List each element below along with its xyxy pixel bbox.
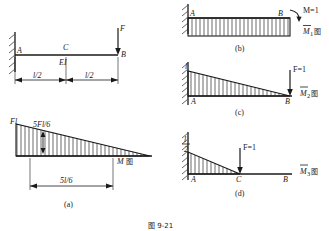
svg-text:图: 图 bbox=[314, 28, 321, 36]
svg-text:1: 1 bbox=[310, 30, 313, 37]
load-arrow-unit-d bbox=[237, 148, 243, 174]
dimension-label-left: l/2 bbox=[33, 71, 41, 80]
inner-label-5fl6: 5Fl/6 bbox=[33, 120, 50, 129]
svg-text:图: 图 bbox=[126, 158, 133, 166]
svg-text:图: 图 bbox=[311, 90, 318, 98]
point-label-c-d: C bbox=[236, 175, 242, 184]
figure-caption: 图 9-21 bbox=[148, 222, 173, 230]
panel-c: l A B F=1 M 2 图 (c) bbox=[182, 62, 318, 117]
svg-text:M: M bbox=[116, 157, 125, 166]
dimension-line-5l6 bbox=[30, 158, 113, 190]
load-arrow-unit-c bbox=[287, 70, 293, 96]
panel-caption-d: (d) bbox=[235, 189, 245, 198]
point-label-a-d: A bbox=[190, 175, 196, 184]
panel-caption-a: (a) bbox=[64, 200, 73, 209]
panel-b: A B M=1 M 1 图 (b) bbox=[182, 4, 321, 53]
svg-text:2: 2 bbox=[184, 145, 188, 154]
structural-mechanics-figure: F A C B EI l/2 l/2 bbox=[0, 0, 329, 231]
panel-caption-b: (b) bbox=[235, 44, 245, 53]
load-label-f1-c: F=1 bbox=[293, 65, 306, 74]
peak-label-l-over-2: l 2 bbox=[182, 135, 190, 154]
point-label-c: C bbox=[63, 43, 69, 52]
panel-a: F A C B EI l/2 l/2 bbox=[9, 24, 152, 209]
point-label-b-b: B bbox=[278, 9, 283, 18]
panel-d: l 2 A C B F=1 M 3 图 (d) bbox=[182, 132, 318, 198]
load-label-f: F bbox=[119, 24, 125, 33]
moment-diagram-c bbox=[188, 66, 292, 99]
load-label-m1: M=1 bbox=[303, 6, 319, 15]
svg-text:l: l bbox=[184, 135, 187, 144]
stiffness-label-ei: EI bbox=[58, 58, 67, 67]
diagram-label-m: M 图 bbox=[116, 157, 133, 166]
diagram-label-m1: M 1 图 bbox=[302, 26, 321, 38]
dimension-label-5l6: 5l/6 bbox=[60, 176, 72, 185]
fixed-support-b bbox=[182, 4, 188, 34]
point-label-a-c: A bbox=[190, 97, 196, 106]
svg-text:3: 3 bbox=[307, 170, 310, 177]
peak-label-fl: Fl bbox=[9, 117, 18, 126]
svg-text:图: 图 bbox=[311, 168, 318, 176]
point-label-a: A bbox=[16, 46, 22, 55]
svg-text:2: 2 bbox=[307, 92, 310, 99]
point-label-b: B bbox=[121, 50, 126, 59]
point-label-b-d: B bbox=[283, 175, 288, 184]
load-label-f1-d: F=1 bbox=[243, 143, 256, 152]
dimension-label-right: l/2 bbox=[85, 71, 93, 80]
panel-caption-c: (c) bbox=[235, 108, 244, 117]
moment-diagram-b bbox=[188, 18, 290, 36]
diagram-label-m2: M 2 图 bbox=[299, 87, 318, 99]
fixed-support-a-beam bbox=[9, 32, 15, 74]
diagram-label-m3: M 3 图 bbox=[299, 165, 318, 177]
point-label-a-b: A bbox=[189, 9, 195, 18]
moment-arrow-unit bbox=[290, 10, 302, 22]
point-label-b-c: B bbox=[285, 97, 290, 106]
